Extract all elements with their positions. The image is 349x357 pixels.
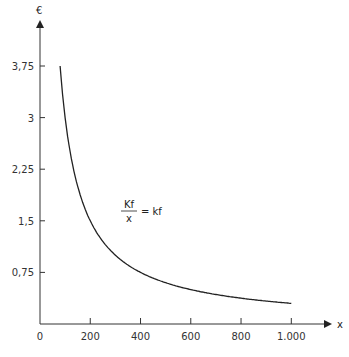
y-tick-label: 3,75 (12, 61, 34, 72)
y-tick-label: 3 (28, 113, 34, 124)
chart: € x 02004006008001.0000,751,52,2533,75 K… (0, 0, 349, 357)
y-axis-title: € (36, 5, 42, 16)
ticks: 02004006008001.0000,751,52,2533,75 (12, 61, 306, 342)
x-tick-label: 1.000 (277, 331, 306, 342)
formula-annotation: Kf x = kf (121, 199, 162, 224)
svg-text:= kf: = kf (141, 206, 162, 217)
y-tick-label: 0,75 (12, 267, 34, 278)
svg-text:Kf: Kf (124, 199, 135, 210)
x-tick-label: 400 (131, 331, 150, 342)
cost-curve (60, 66, 291, 303)
x-axis-title: x (337, 319, 343, 330)
x-tick-label: 600 (181, 331, 200, 342)
x-tick-label: 200 (81, 331, 100, 342)
y-tick-label: 1,5 (18, 216, 34, 227)
svg-text:x: x (126, 213, 132, 224)
x-tick-label: 800 (231, 331, 250, 342)
y-tick-label: 2,25 (12, 164, 34, 175)
x-tick-label: 0 (37, 331, 43, 342)
